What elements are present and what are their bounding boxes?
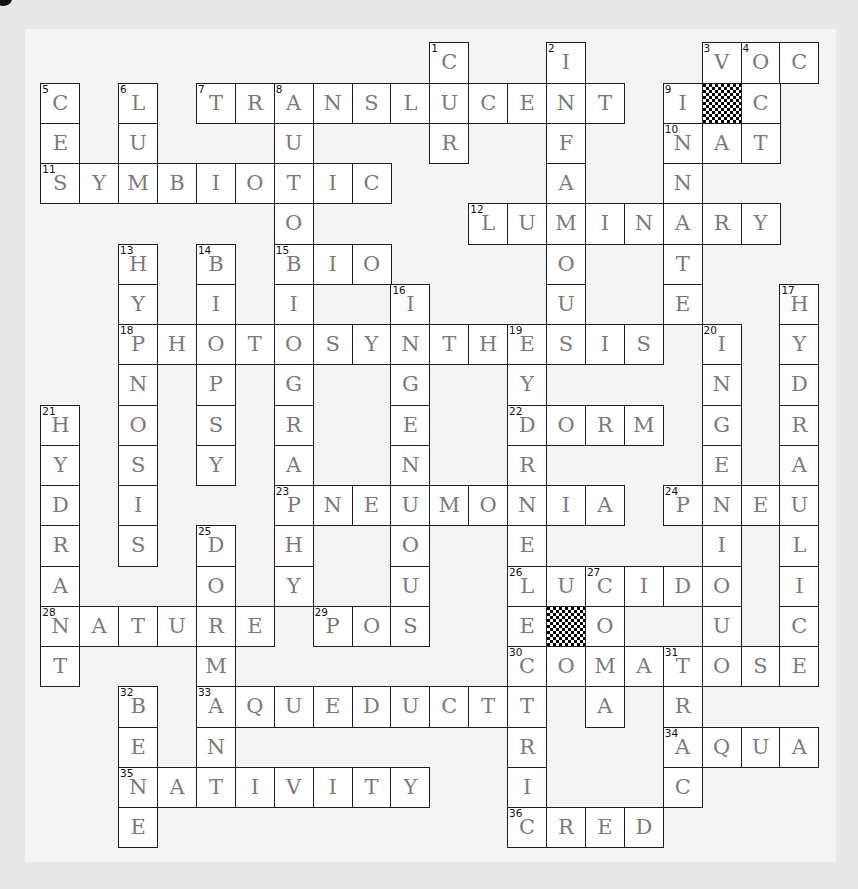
crossword-cell[interactable]: Y — [196, 445, 236, 486]
crossword-cell[interactable]: S — [390, 606, 430, 647]
crossword-cell[interactable]: 27C — [585, 566, 625, 607]
crossword-cell[interactable]: 8A — [274, 83, 314, 124]
crossword-cell[interactable]: Y — [118, 284, 158, 325]
crossword-cell[interactable]: O — [196, 566, 236, 607]
crossword-cell[interactable]: O — [702, 566, 742, 607]
crossword-cell[interactable]: 21H — [40, 405, 80, 446]
crossword-cell[interactable]: Y — [741, 203, 781, 244]
crossword-cell[interactable]: A — [585, 686, 625, 727]
crossword-cell[interactable]: 1C — [429, 42, 469, 83]
crossword-cell[interactable]: U — [390, 686, 430, 727]
crossword-cell[interactable]: 12L — [468, 203, 508, 244]
crossword-cell[interactable]: T — [235, 324, 275, 365]
crossword-cell[interactable]: 19E — [507, 324, 547, 365]
crossword-cell[interactable]: E — [585, 807, 625, 848]
crossword-cell[interactable]: Q — [702, 727, 742, 768]
crossword-cell[interactable]: E — [390, 405, 430, 446]
crossword-cell[interactable]: 30C — [507, 646, 547, 687]
crossword-cell[interactable]: I — [274, 284, 314, 325]
crossword-cell[interactable]: E — [663, 284, 703, 325]
crossword-cell[interactable]: 14B — [196, 244, 236, 285]
crossword-cell[interactable]: 16I — [390, 284, 430, 325]
crossword-cell[interactable]: M — [118, 163, 158, 204]
crossword-cell[interactable]: T — [274, 163, 314, 204]
crossword-cell[interactable]: C — [468, 83, 508, 124]
crossword-cell[interactable]: U — [157, 606, 197, 647]
crossword-cell[interactable]: 33A — [196, 686, 236, 727]
crossword-cell[interactable]: 20I — [702, 324, 742, 365]
crossword-cell[interactable]: E — [741, 485, 781, 526]
crossword-cell[interactable]: T — [196, 767, 236, 808]
crossword-cell[interactable]: T — [40, 646, 80, 687]
crossword-cell[interactable]: E — [507, 606, 547, 647]
crossword-cell[interactable]: S — [118, 445, 158, 486]
crossword-cell[interactable]: U — [507, 203, 547, 244]
crossword-cell[interactable]: N — [702, 364, 742, 405]
crossword-cell[interactable]: N — [546, 83, 586, 124]
crossword-cell[interactable]: D — [624, 807, 664, 848]
crossword-cell[interactable]: A — [546, 163, 586, 204]
crossword-cell[interactable]: O — [352, 244, 392, 285]
crossword-cell[interactable]: R — [274, 405, 314, 446]
crossword-cell[interactable]: L — [390, 83, 430, 124]
crossword-cell[interactable]: N — [313, 485, 353, 526]
crossword-cell[interactable]: A — [157, 767, 197, 808]
crossword-cell[interactable]: 15B — [274, 244, 314, 285]
crossword-cell[interactable]: Y — [352, 324, 392, 365]
crossword-cell[interactable]: S — [624, 324, 664, 365]
crossword-cell[interactable]: U — [118, 123, 158, 164]
crossword-cell[interactable]: G — [274, 364, 314, 405]
crossword-cell[interactable]: D — [352, 686, 392, 727]
crossword-cell[interactable]: I — [585, 324, 625, 365]
crossword-cell[interactable]: N — [507, 485, 547, 526]
crossword-cell[interactable]: N — [118, 364, 158, 405]
crossword-cell[interactable]: C — [352, 163, 392, 204]
crossword-cell[interactable]: T — [118, 606, 158, 647]
crossword-cell[interactable]: N — [663, 163, 703, 204]
crossword-cell[interactable]: U — [702, 606, 742, 647]
crossword-cell[interactable]: U — [546, 566, 586, 607]
crossword-cell[interactable]: O — [702, 646, 742, 687]
crossword-cell[interactable]: E — [779, 646, 819, 687]
crossword-cell[interactable]: M — [585, 646, 625, 687]
crossword-cell[interactable]: T — [741, 123, 781, 164]
crossword-cell[interactable]: R — [663, 686, 703, 727]
crossword-cell[interactable]: Y — [79, 163, 119, 204]
crossword-cell[interactable]: T — [468, 686, 508, 727]
crossword-cell[interactable]: D — [779, 364, 819, 405]
crossword-cell[interactable]: R — [40, 525, 80, 566]
crossword-cell[interactable]: Q — [235, 686, 275, 727]
crossword-cell[interactable]: U — [274, 123, 314, 164]
crossword-cell[interactable]: R — [507, 445, 547, 486]
crossword-cell[interactable]: C — [429, 686, 469, 727]
crossword-cell[interactable]: I — [313, 163, 353, 204]
crossword-cell[interactable]: C — [663, 767, 703, 808]
crossword-cell[interactable]: S — [741, 646, 781, 687]
crossword-cell[interactable]: R — [702, 203, 742, 244]
crossword-cell[interactable]: R — [585, 405, 625, 446]
crossword-cell[interactable]: E — [352, 485, 392, 526]
crossword-cell[interactable]: Y — [507, 364, 547, 405]
crossword-cell[interactable]: V — [274, 767, 314, 808]
crossword-cell[interactable]: 24P — [663, 485, 703, 526]
crossword-cell[interactable]: T — [352, 767, 392, 808]
crossword-cell[interactable]: O — [468, 485, 508, 526]
crossword-cell[interactable]: R — [779, 405, 819, 446]
crossword-cell[interactable]: R — [546, 807, 586, 848]
crossword-cell[interactable]: A — [702, 123, 742, 164]
crossword-cell[interactable]: 6L — [118, 83, 158, 124]
crossword-cell[interactable]: O — [196, 324, 236, 365]
crossword-cell[interactable]: 35N — [118, 767, 158, 808]
crossword-cell[interactable]: H — [468, 324, 508, 365]
crossword-cell[interactable]: G — [390, 364, 430, 405]
crossword-cell[interactable]: 18P — [118, 324, 158, 365]
crossword-cell[interactable]: C — [779, 42, 819, 83]
crossword-cell[interactable]: M — [196, 646, 236, 687]
crossword-cell[interactable]: I — [118, 485, 158, 526]
crossword-cell[interactable]: M — [624, 405, 664, 446]
crossword-cell[interactable]: Y — [40, 445, 80, 486]
crossword-cell[interactable]: U — [741, 727, 781, 768]
crossword-cell[interactable]: 29P — [313, 606, 353, 647]
crossword-cell[interactable]: D — [40, 485, 80, 526]
crossword-cell[interactable]: A — [585, 485, 625, 526]
